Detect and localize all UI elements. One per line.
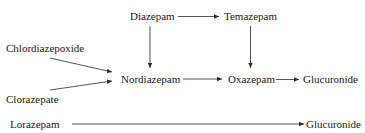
- node-oxazepam: Oxazepam: [228, 73, 275, 86]
- node-diazepam: Diazepam: [130, 10, 175, 23]
- arrow-chlordiazepoxide-to-nordiazepam: [50, 58, 112, 72]
- arrow-clorazepate-to-nordiazepam: [50, 81, 112, 90]
- node-glucuronide-1: Glucuronide: [303, 73, 358, 86]
- node-lorazepam: Lorazepam: [10, 118, 59, 131]
- node-nordiazepam: Nordiazepam: [121, 73, 180, 86]
- node-chlordiazepoxide: Chlordiazepoxide: [6, 42, 84, 55]
- node-clorazepate: Clorazepate: [6, 93, 59, 106]
- pathway-arrows: [0, 0, 365, 133]
- node-temazepam: Temazepam: [224, 10, 277, 23]
- node-glucuronide-2: Glucuronide: [306, 118, 361, 131]
